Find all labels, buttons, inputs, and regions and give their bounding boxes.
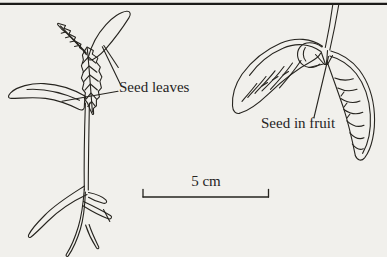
scale-bar (143, 190, 269, 198)
samara-right-wing (327, 51, 375, 160)
seedling-roots (28, 186, 111, 256)
seed-leaves-label: Seed leaves (119, 79, 189, 95)
scale-bar-label: 5 cm (143, 173, 269, 189)
seedling-stem (84, 103, 89, 190)
true-leaf-small (58, 23, 87, 54)
winged-seed-drawing (232, 5, 374, 161)
seedling-drawing (9, 11, 131, 256)
samara-left-wing (232, 39, 322, 113)
botany-figure: Seed leaves Seed in fruit 5 cm (0, 0, 387, 257)
samara-stalk (325, 5, 339, 51)
seed-in-fruit-label: Seed in fruit (261, 115, 335, 131)
cotyledon-horizontal-leaf (9, 84, 86, 110)
